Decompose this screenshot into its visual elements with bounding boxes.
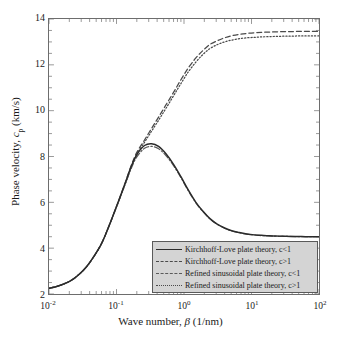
x-axis-title-prefix: Wave number, — [118, 315, 184, 327]
y-tick-label: 6 — [40, 198, 45, 208]
legend-item[interactable]: Kirchhoff-Love plate theory, c<1 — [156, 244, 314, 256]
y-axis-title-subscript: p — [16, 129, 25, 133]
legend-item[interactable]: Refined sinusoidal plate theory, c<1 — [156, 268, 314, 280]
x-tick-label: 10-2 — [40, 298, 55, 311]
figure-root: 2468101214 10-210-1100101102 Wave number… — [0, 0, 341, 341]
y-tick-label: 10 — [35, 105, 45, 115]
legend-item-label: Kirchhoff-Love plate theory, c>1 — [185, 257, 291, 267]
y-tick-label: 8 — [40, 152, 45, 162]
legend-item-label: Kirchhoff-Love plate theory, c<1 — [185, 245, 291, 255]
x-tick-label: 101 — [246, 298, 259, 311]
legend-item[interactable]: Kirchhoff-Love plate theory, c>1 — [156, 256, 314, 268]
y-tick-label: 12 — [35, 59, 45, 69]
y-tick-label: 4 — [40, 244, 45, 254]
x-tick-label: 100 — [178, 298, 191, 311]
legend-item-label: Refined sinusoidal plate theory, c>1 — [185, 281, 300, 291]
legend-line-swatch-icon — [156, 245, 182, 255]
page-bleed-artifact — [140, 0, 310, 6]
x-axis-title: Wave number, β (1/nm) — [0, 315, 341, 327]
legend-line-swatch-icon — [156, 269, 182, 279]
y-axis-title-units: (km/s) — [9, 97, 21, 128]
legend-line-swatch-icon — [156, 257, 182, 267]
y-axis-title: Phase velocity, cp (km/s) — [9, 12, 24, 292]
y-axis-title-prefix: Phase velocity, — [9, 137, 21, 206]
y-axis-title-symbol: c — [9, 132, 21, 137]
x-axis-title-units: (1/nm) — [190, 315, 223, 327]
legend-item[interactable]: Refined sinusoidal plate theory, c>1 — [156, 280, 314, 292]
legend-line-swatch-icon — [156, 281, 182, 291]
y-tick-label: 14 — [35, 13, 45, 23]
legend-item-label: Refined sinusoidal plate theory, c<1 — [185, 269, 300, 279]
x-tick-label: 10-1 — [108, 298, 123, 311]
x-axis-tick-labels: 10-210-1100101102 — [48, 298, 320, 312]
legend[interactable]: Kirchhoff-Love plate theory, c<1Kirchhof… — [152, 241, 318, 293]
x-tick-label: 102 — [314, 298, 327, 311]
